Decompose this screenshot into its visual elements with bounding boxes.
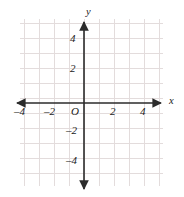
x-axis-label: x bbox=[169, 96, 174, 107]
origin-label: O bbox=[71, 106, 79, 117]
y-tick-label-2: 2 bbox=[70, 63, 76, 74]
x-tick-label-neg2: –2 bbox=[44, 106, 55, 117]
coordinate-plane-svg bbox=[0, 0, 184, 197]
y-axis-label: y bbox=[86, 7, 91, 18]
x-tick-label-neg4: –4 bbox=[14, 106, 25, 117]
y-tick-label-4: 4 bbox=[70, 33, 76, 44]
coordinate-plane-figure: –4 –2 2 4 4 2 –2 –4 O x y bbox=[0, 0, 184, 197]
x-tick-label-4: 4 bbox=[140, 106, 146, 117]
y-tick-label-neg2: –2 bbox=[66, 125, 77, 136]
y-tick-label-neg4: –4 bbox=[66, 155, 77, 166]
x-tick-label-2: 2 bbox=[110, 106, 116, 117]
